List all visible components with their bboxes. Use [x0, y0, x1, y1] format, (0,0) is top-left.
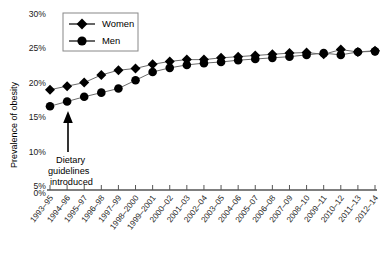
- circle-marker-icon: [63, 97, 72, 106]
- x-axis: [47, 185, 377, 190]
- circle-marker-icon: [268, 54, 277, 63]
- y-tick-label: 15%: [29, 112, 47, 122]
- annotation-line-3: introduced: [50, 177, 93, 187]
- circle-marker-icon: [285, 52, 294, 61]
- circle-marker-icon: [336, 51, 345, 60]
- y-tick-label: 25%: [29, 43, 47, 53]
- circle-marker-icon: [148, 68, 157, 77]
- diamond-marker-icon: [45, 85, 55, 95]
- circle-marker-icon: [371, 47, 380, 56]
- y-tick-label: 0%: [34, 188, 47, 198]
- circle-marker-icon: [131, 76, 140, 85]
- legend-label-men: Men: [102, 35, 120, 46]
- y-tick-label: 10%: [29, 147, 47, 157]
- circle-marker-icon: [46, 102, 55, 111]
- circle-marker-icon: [251, 55, 260, 64]
- circle-marker-icon: [80, 92, 89, 101]
- series-line: [50, 51, 375, 106]
- circle-marker-icon: [183, 61, 192, 70]
- circle-marker-icon: [354, 48, 363, 57]
- y-tick-label: 30%: [29, 9, 47, 19]
- series-women: [45, 45, 380, 95]
- circle-marker-icon: [97, 88, 106, 97]
- obesity-prevalence-line-chart: Prevalence of obesity 30% 25% 20% 15% 10…: [0, 0, 390, 261]
- annotation-line-2: guidelines: [48, 166, 90, 176]
- circle-marker-icon: [319, 49, 328, 58]
- circle-marker-icon: [234, 56, 243, 65]
- y-axis-tick-labels: 30% 25% 20% 15% 10% 5% 0%: [29, 9, 47, 198]
- diamond-marker-icon: [96, 70, 106, 80]
- y-axis-title: Prevalence of obesity: [9, 81, 19, 168]
- annotation-arrow-head: [63, 111, 73, 123]
- series-men: [46, 47, 380, 110]
- diamond-marker-icon: [79, 78, 89, 88]
- dietary-guidelines-annotation: Dietary guidelines introduced: [48, 111, 93, 187]
- diamond-marker-icon: [113, 65, 123, 75]
- diamond-marker-icon: [62, 81, 72, 91]
- annotation-line-1: Dietary: [56, 155, 86, 165]
- figure-container: Prevalence of obesity 30% 25% 20% 15% 10…: [0, 0, 390, 261]
- circle-marker-icon: [200, 59, 209, 68]
- diamond-marker-icon: [131, 63, 141, 73]
- legend: Women Men: [63, 13, 138, 51]
- data-series-group: [45, 45, 380, 111]
- circle-marker-icon: [165, 64, 174, 73]
- circle-marker-icon: [217, 58, 226, 67]
- circle-marker-icon: [114, 84, 123, 93]
- x-axis-tick-labels: 1993–951994–961995–971996–981997–991998–…: [28, 193, 380, 231]
- legend-label-women: Women: [102, 18, 134, 29]
- circle-marker-icon: [302, 51, 311, 60]
- circle-marker-icon: [77, 36, 86, 45]
- y-tick-label: 20%: [29, 78, 47, 88]
